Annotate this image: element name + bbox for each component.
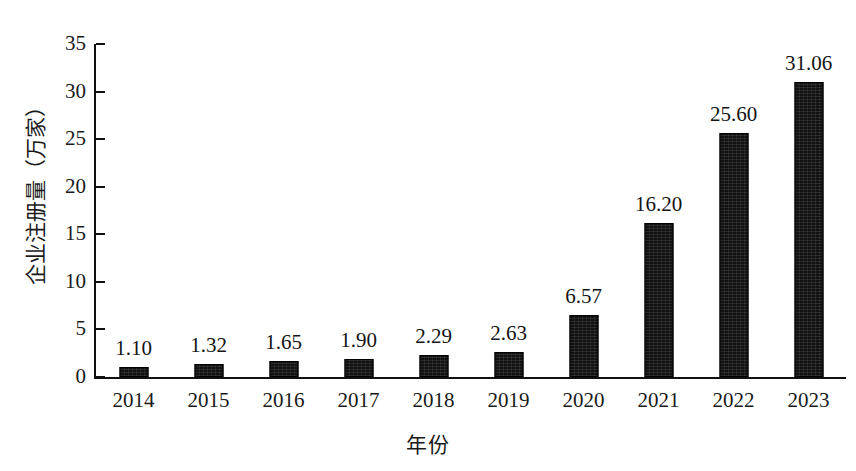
y-tick-label: 5 — [44, 318, 86, 339]
bar-value-label: 31.06 — [785, 53, 832, 74]
y-tick-label: 15 — [44, 223, 86, 244]
bar-group: 16.20 — [621, 44, 696, 377]
y-tick-label: 25 — [44, 128, 86, 149]
bar-value-label: 1.65 — [265, 332, 302, 353]
bar-2022[interactable] — [719, 133, 748, 377]
y-tick-label: 10 — [44, 271, 86, 292]
figure-caption — [0, 462, 856, 471]
bar-2019[interactable] — [494, 352, 523, 377]
y-tick-label: 0 — [44, 366, 86, 387]
bar-value-label: 1.32 — [190, 335, 227, 356]
x-tick-label-2023: 2023 — [764, 390, 854, 411]
bar-group: 6.57 — [546, 44, 621, 377]
bar-group: 25.60 — [696, 44, 771, 377]
y-tick-label: 20 — [44, 176, 86, 197]
plot-area: 1.101.321.651.902.292.636.5716.2025.6031… — [96, 44, 846, 377]
bar-value-label: 16.20 — [635, 194, 682, 215]
bar-group: 1.90 — [321, 44, 396, 377]
bar-value-label: 2.29 — [415, 326, 452, 347]
bar-group: 1.10 — [96, 44, 171, 377]
bar-value-label: 1.10 — [115, 338, 152, 359]
bar-2017[interactable] — [344, 359, 373, 377]
bar-value-label: 2.63 — [490, 323, 527, 344]
x-axis-line — [94, 377, 846, 379]
bar-group: 1.65 — [246, 44, 321, 377]
bar-2023[interactable] — [794, 82, 823, 378]
bar-group: 31.06 — [771, 44, 846, 377]
y-tick-label: 30 — [44, 81, 86, 102]
bar-2014[interactable] — [119, 367, 148, 377]
bar-2018[interactable] — [419, 355, 448, 377]
bar-chart-figure: 企业注册量（万家） 05101520253035 1.101.321.651.9… — [0, 0, 856, 471]
bar-2021[interactable] — [644, 223, 673, 377]
bar-value-label: 1.90 — [340, 330, 377, 351]
x-axis-title: 年份 — [0, 428, 856, 458]
bar-group: 2.63 — [471, 44, 546, 377]
bar-group: 2.29 — [396, 44, 471, 377]
bar-group: 1.32 — [171, 44, 246, 377]
y-tick-label: 35 — [44, 33, 86, 54]
bar-value-label: 6.57 — [565, 286, 602, 307]
bar-2020[interactable] — [569, 315, 598, 378]
bar-2016[interactable] — [269, 361, 298, 377]
bar-2015[interactable] — [194, 364, 223, 377]
bar-value-label: 25.60 — [710, 104, 757, 125]
